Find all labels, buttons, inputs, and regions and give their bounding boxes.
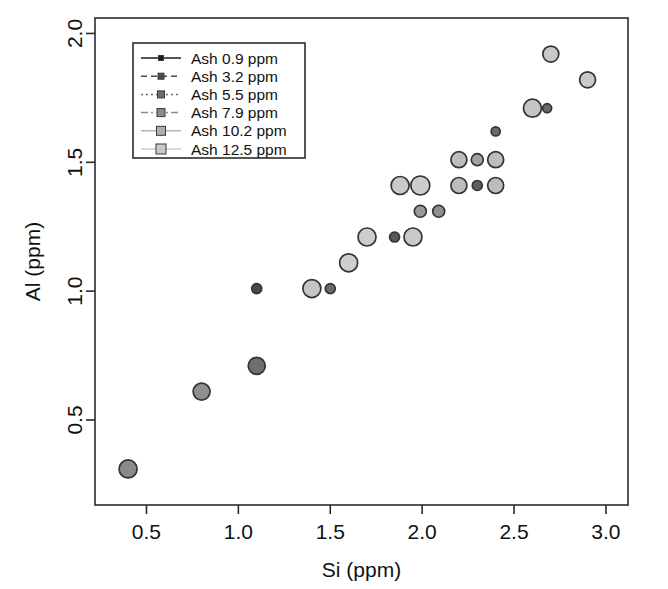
legend: Ash 0.9 ppmAsh 3.2 ppmAsh 5.5 ppmAsh 7.9… <box>133 43 305 158</box>
data-point <box>523 99 541 117</box>
data-point <box>471 154 483 166</box>
legend-marker <box>156 144 166 154</box>
data-point <box>433 205 445 217</box>
x-tick-label: 0.5 <box>132 520 161 543</box>
data-point <box>325 284 335 294</box>
x-tick-label: 3.0 <box>591 520 620 543</box>
x-tick-label: 2.5 <box>499 520 528 543</box>
data-point <box>252 284 262 294</box>
data-point <box>451 177 467 193</box>
data-point <box>404 228 422 246</box>
data-point <box>358 228 376 246</box>
legend-marker <box>159 56 164 61</box>
legend-marker <box>158 73 164 79</box>
legend-label: Ash 7.9 ppm <box>191 104 278 121</box>
data-point <box>543 104 552 113</box>
scatter-plot-figure: 0.51.01.52.02.53.00.51.01.52.0Si (ppm)Al… <box>0 0 668 589</box>
data-point <box>543 46 559 62</box>
y-tick-label: 1.5 <box>64 148 87 177</box>
legend-label: Ash 0.9 ppm <box>191 50 278 67</box>
data-point <box>580 72 596 88</box>
data-point <box>119 460 137 478</box>
data-point <box>340 254 358 272</box>
data-point <box>303 280 321 298</box>
data-point <box>391 176 409 194</box>
data-point <box>193 383 210 400</box>
y-tick-label: 2.0 <box>64 19 87 48</box>
legend-label: Ash 10.2 ppm <box>191 122 287 139</box>
data-point <box>390 232 400 242</box>
x-tick-label: 1.0 <box>224 520 253 543</box>
data-point <box>488 152 504 168</box>
y-tick-label: 0.5 <box>64 405 87 434</box>
y-axis-title: Al (ppm) <box>21 222 44 301</box>
chart-canvas: 0.51.01.52.02.53.00.51.01.52.0Si (ppm)Al… <box>0 0 668 589</box>
legend-marker <box>157 109 165 117</box>
data-point <box>411 176 430 195</box>
data-point <box>414 205 426 217</box>
x-tick-label: 1.5 <box>316 520 345 543</box>
data-point <box>472 180 482 190</box>
x-tick-label: 2.0 <box>408 520 437 543</box>
data-point <box>248 357 265 374</box>
x-axis-title: Si (ppm) <box>322 558 401 581</box>
legend-label: Ash 12.5 ppm <box>191 141 287 158</box>
legend-marker <box>158 91 165 98</box>
legend-label: Ash 5.5 ppm <box>191 86 278 103</box>
data-point <box>451 152 467 168</box>
data-point <box>488 177 504 193</box>
legend-label: Ash 3.2 ppm <box>191 68 278 85</box>
data-point <box>491 127 500 136</box>
legend-marker <box>157 126 166 135</box>
y-tick-label: 1.0 <box>64 277 87 306</box>
